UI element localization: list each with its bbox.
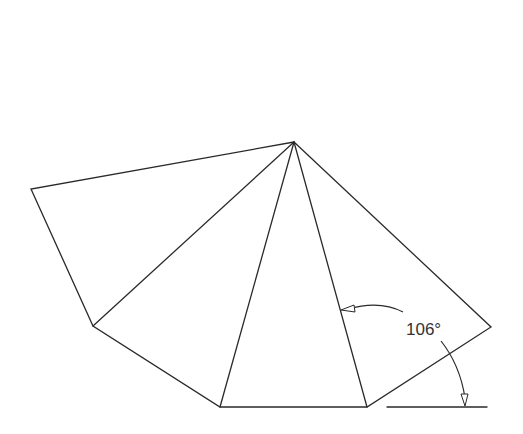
angle-label: 106° [406, 320, 441, 339]
arrowhead-down-icon [461, 394, 468, 406]
angle-arc-lower [441, 341, 465, 398]
outer-edge [31, 142, 491, 407]
diagonal-apex-bottom-left [220, 142, 294, 407]
polygon-diagram: 106° [0, 0, 523, 434]
diagonal-apex-lower-left [93, 142, 294, 326]
arrowhead-left-icon [341, 305, 355, 312]
angle-arc-upper [348, 305, 403, 312]
diagonal-apex-bottom-right [294, 142, 367, 407]
